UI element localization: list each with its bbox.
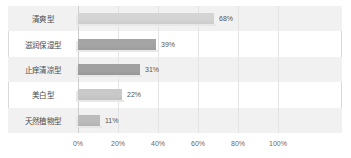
chart-bar-fill: [78, 64, 140, 75]
category-label: 滋润保湿型: [8, 31, 78, 56]
category-label: 天然植物型: [8, 108, 78, 133]
horizontal-bar-chart: 清爽型滋润保湿型止痒清凉型美白型天然植物型68%39%31%22%11%0%20…: [0, 0, 351, 158]
chart-bar: [78, 89, 122, 100]
bar-value-label: 39%: [161, 41, 175, 48]
x-axis-tick-label: 40%: [151, 140, 165, 147]
chart-bar-fill: [78, 89, 122, 100]
x-axis-tick-label: 80%: [231, 140, 245, 147]
chart-bar-bottom-bevel: [78, 24, 216, 26]
category-label: 清爽型: [8, 6, 78, 31]
bar-value-label: 11%: [105, 117, 119, 124]
x-axis-tick-label: 60%: [191, 140, 205, 147]
bar-value-label: 68%: [219, 15, 233, 22]
chart-bar-bottom-bevel: [78, 75, 142, 77]
chart-bar-bottom-bevel: [78, 50, 158, 52]
bar-value-label: 31%: [145, 66, 159, 73]
chart-gridline: [238, 6, 239, 133]
chart-bar: [78, 39, 156, 50]
category-label: 止痒清凉型: [8, 57, 78, 82]
category-label: 美白型: [8, 82, 78, 107]
chart-gridline: [278, 6, 279, 133]
chart-bar-bottom-bevel: [78, 126, 102, 128]
x-axis-tick-label: 0%: [73, 140, 83, 147]
chart-bar-bottom-bevel: [78, 100, 124, 102]
chart-bar-fill: [78, 13, 214, 24]
x-axis-tick-label: 100%: [269, 140, 287, 147]
chart-bar-fill: [78, 39, 156, 50]
chart-bar: [78, 13, 214, 24]
bar-value-label: 22%: [127, 91, 141, 98]
chart-bar-fill: [78, 115, 100, 126]
chart-bar: [78, 64, 140, 75]
chart-bar: [78, 115, 100, 126]
x-axis-tick-label: 20%: [111, 140, 125, 147]
